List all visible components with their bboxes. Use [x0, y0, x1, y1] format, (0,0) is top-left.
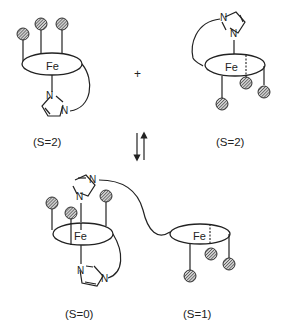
nitrogen-label: N	[220, 12, 227, 23]
spin-label: (S=2)	[33, 136, 62, 148]
equilibrium-arrows	[137, 133, 144, 160]
picket-ball-icon	[46, 197, 58, 209]
species-top-right: N N Fe (S=2)	[192, 12, 270, 148]
picket-ball-icon	[240, 77, 252, 89]
fe-label: Fe	[46, 60, 59, 72]
picket-ball-icon	[205, 248, 217, 260]
picket-ball-icon	[35, 18, 47, 30]
imidazole-bond	[56, 96, 63, 102]
spin-label: (S=1)	[183, 308, 212, 320]
nitrogen-label: N	[61, 105, 68, 116]
picket-ball-icon	[216, 98, 228, 110]
picket-ball-icon	[258, 86, 270, 98]
nitrogen-label: N	[101, 273, 108, 284]
picket-ball-icon	[100, 190, 112, 202]
nitrogen-label: N	[46, 90, 53, 101]
fe-label: Fe	[225, 61, 238, 73]
picket-ball-icon	[56, 18, 68, 30]
nitrogen-label: N	[230, 28, 237, 39]
spin-label: (S=2)	[216, 136, 245, 148]
species-bottom-left: N N Fe N N (S=0)	[46, 174, 170, 320]
diagram-canvas: Fe N N (S=2) + N N Fe (S=2)	[0, 0, 283, 336]
nitrogen-label: N	[76, 191, 83, 202]
imidazole-bond	[86, 266, 93, 267]
fe-label: Fe	[74, 230, 87, 242]
fe-label: Fe	[193, 230, 206, 242]
tether-chain	[108, 234, 121, 278]
picket-ball-icon	[223, 258, 235, 270]
imidazole-bond	[222, 22, 226, 30]
species-top-left: Fe N N (S=2)	[17, 18, 90, 148]
picket-ball-icon	[17, 28, 29, 40]
picket-ball-icon	[65, 207, 77, 219]
nitrogen-label: N	[89, 174, 96, 185]
picket-ball-icon	[184, 270, 196, 282]
plus-operator: +	[134, 67, 141, 81]
spin-label: (S=0)	[65, 308, 94, 320]
nitrogen-label: N	[77, 265, 84, 276]
species-bottom-right: Fe (S=1)	[170, 224, 235, 320]
tether-chain	[99, 180, 170, 235]
